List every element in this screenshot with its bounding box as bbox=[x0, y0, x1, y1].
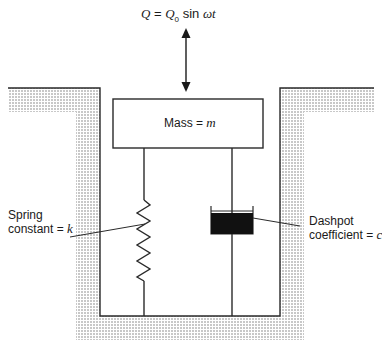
force-equals: = bbox=[150, 6, 165, 21]
dashpot-label-line2: coefficient = c bbox=[309, 228, 382, 242]
force-omega-t: ωt bbox=[203, 6, 216, 21]
mass-label: Mass = m bbox=[164, 116, 216, 130]
force-arrow-icon bbox=[182, 28, 191, 92]
spring-label-line1: Spring bbox=[8, 208, 73, 222]
force-sin: sin bbox=[179, 6, 203, 21]
spring bbox=[137, 148, 150, 316]
dashpot-text: coefficient = bbox=[309, 228, 377, 242]
dashpot bbox=[211, 148, 253, 316]
spring-symbol: k bbox=[67, 221, 73, 236]
dashpot-symbol: c bbox=[377, 227, 382, 242]
mass-symbol: m bbox=[206, 115, 215, 130]
spring-label-line2: constant = k bbox=[8, 222, 73, 236]
mass-text: Mass = bbox=[164, 116, 206, 130]
force-amplitude: Q bbox=[165, 6, 174, 21]
dashpot-label-line1: Dashpot bbox=[309, 214, 382, 228]
dashpot-label: Dashpot coefficient = c bbox=[309, 214, 382, 242]
force-symbol: Q bbox=[141, 6, 150, 21]
force-label: Q = Q0 sin ωt bbox=[141, 7, 216, 27]
spring-label: Spring constant = k bbox=[8, 208, 73, 236]
spring-text: constant = bbox=[8, 222, 67, 236]
